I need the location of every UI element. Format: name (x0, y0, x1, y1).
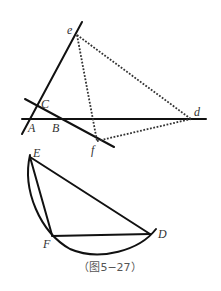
upper-figure (22, 22, 206, 147)
segment-ef (77, 35, 97, 141)
label-f: f (91, 143, 96, 157)
segment-ed (77, 35, 191, 119)
label-e: e (67, 23, 73, 37)
label-B: B (52, 121, 60, 135)
label-A: A (27, 121, 36, 135)
label-C: C (41, 97, 50, 111)
segment-FD (52, 234, 150, 236)
label-E: E (32, 146, 41, 160)
dotted-triangle-edf (77, 35, 191, 141)
label-F: F (42, 237, 51, 251)
figure-caption: （图5−27） (78, 261, 141, 274)
geometry-figure: e C A B f d E F D （图5−27） (0, 0, 221, 291)
label-D: D (157, 227, 167, 241)
line-through-A-C-e (22, 22, 82, 134)
segment-fd (97, 119, 191, 141)
label-d: d (194, 105, 201, 119)
